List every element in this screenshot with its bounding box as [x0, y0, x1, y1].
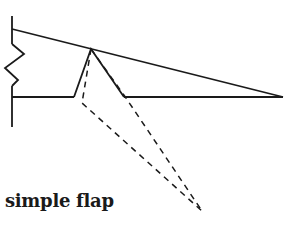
deflected-flap-dashed-left [82, 49, 202, 211]
upper-surface-line [12, 29, 283, 97]
diagram-caption: simple flap [5, 190, 114, 211]
flap-solid-outline [74, 49, 124, 97]
spring-zigzag [5, 44, 24, 86]
